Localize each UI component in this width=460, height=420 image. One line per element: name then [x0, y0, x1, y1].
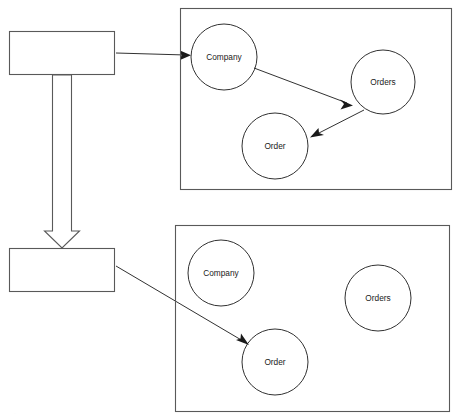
node-top-order-label: Order — [264, 141, 285, 151]
node-top-orders[interactable]: Orders — [351, 50, 415, 114]
connector-target-to-bottom-order-arrowhead — [236, 334, 249, 346]
node-bottom-order-label: Order — [264, 357, 285, 367]
faint-artifact-text: . — [14, 408, 16, 415]
node-bottom-orders[interactable]: Orders — [345, 265, 411, 331]
node-bottom-company-label: Company — [203, 268, 239, 278]
edge-company-orders-arrowhead — [340, 100, 353, 110]
connector-source-to-top-company-line — [116, 53, 186, 55]
edge-orders-order-arrowhead — [310, 128, 324, 138]
node-top-company-label: Company — [206, 52, 242, 62]
top-graph-panel-border — [181, 9, 452, 190]
node-top-order[interactable]: Order — [242, 113, 308, 179]
edge-company-orders-line — [254, 68, 347, 103]
node-bottom-order[interactable]: Order — [242, 329, 308, 395]
node-top-company[interactable]: Company — [191, 24, 257, 90]
diagram-root: Company Orders Order Company — [0, 0, 460, 420]
diagram-canvas: Company Orders Order Company — [0, 0, 460, 420]
source-box[interactable] — [10, 32, 115, 75]
bottom-graph-panel-border — [176, 226, 450, 412]
connector-source-to-top-company-arrowhead — [180, 51, 191, 60]
target-box[interactable] — [10, 249, 115, 292]
transform-block-arrow — [45, 75, 80, 248]
node-bottom-company[interactable]: Company — [188, 240, 254, 306]
edge-orders-order — [310, 110, 364, 138]
source-box-rect[interactable] — [10, 32, 115, 75]
top-graph-panel: Company Orders Order — [181, 9, 452, 190]
bottom-graph-panel: Company Orders Order — [176, 226, 450, 412]
connector-source-to-top-company — [116, 51, 191, 60]
connector-target-to-bottom-order — [116, 266, 249, 345]
node-bottom-orders-label: Orders — [365, 293, 390, 303]
edge-orders-order-line — [317, 110, 364, 134]
transform-block-arrow-shape — [45, 75, 80, 248]
node-top-orders-label: Orders — [370, 77, 395, 87]
target-box-rect[interactable] — [10, 249, 115, 292]
edge-company-orders — [254, 68, 353, 110]
